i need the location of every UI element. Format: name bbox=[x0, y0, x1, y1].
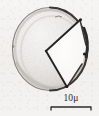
wedge-upper-node bbox=[79, 18, 82, 21]
scale-bar: 10μ bbox=[47, 93, 95, 114]
wedge-apex-node bbox=[45, 50, 47, 52]
wedge-lower-node bbox=[66, 85, 69, 88]
specimen-illustration bbox=[0, 0, 99, 95]
scale-bar-label: 10μ bbox=[47, 93, 95, 104]
figure-container: 10μ bbox=[0, 0, 99, 116]
scale-bar-rule bbox=[50, 106, 92, 111]
wedge-mid-node bbox=[83, 52, 86, 55]
